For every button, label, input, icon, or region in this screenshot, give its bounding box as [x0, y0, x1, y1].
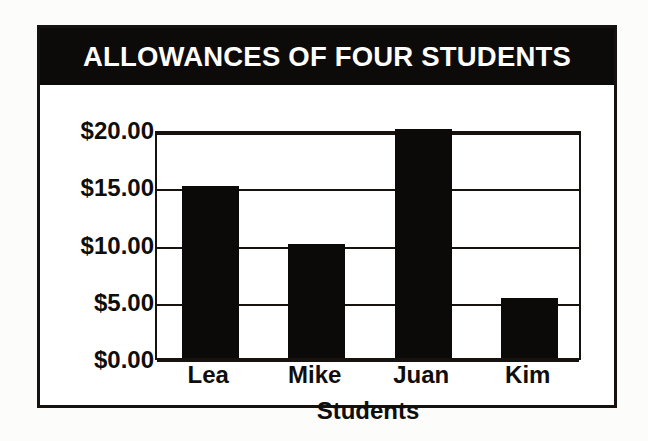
bar-juan: [395, 129, 452, 358]
plot-area: [155, 131, 581, 360]
chart-figure-frame: ALLOWANCES OF FOUR STUDENTS $20.00$15.00…: [37, 25, 617, 408]
x-axis-title: Students: [155, 399, 581, 423]
x-axis-tick-labels: LeaMikeJuanKim: [155, 363, 581, 397]
x-tick-label-lea: Lea: [155, 363, 262, 387]
bar-mike: [288, 244, 345, 359]
chart-body: $20.00$15.00$10.00$5.00$0.00 LeaMikeJuan…: [40, 85, 614, 405]
y-tick-label-20: $20.00: [36, 119, 154, 143]
y-tick-label-15: $15.00: [36, 176, 154, 200]
y-axis-tick-labels: $20.00$15.00$10.00$5.00$0.00: [36, 85, 154, 405]
scan-background: ALLOWANCES OF FOUR STUDENTS $20.00$15.00…: [0, 0, 648, 441]
y-tick-label-0: $0.00: [36, 348, 154, 372]
bar-lea: [182, 186, 239, 358]
x-tick-label-kim: Kim: [475, 363, 582, 387]
bars-layer: [157, 133, 579, 358]
y-tick-label-10: $10.00: [36, 234, 154, 258]
x-tick-label-juan: Juan: [368, 363, 475, 387]
x-tick-label-mike: Mike: [262, 363, 369, 387]
bar-kim: [501, 298, 558, 358]
chart-title: ALLOWANCES OF FOUR STUDENTS: [83, 43, 571, 71]
chart-title-banner: ALLOWANCES OF FOUR STUDENTS: [40, 28, 614, 85]
y-tick-label-5: $5.00: [36, 291, 154, 315]
